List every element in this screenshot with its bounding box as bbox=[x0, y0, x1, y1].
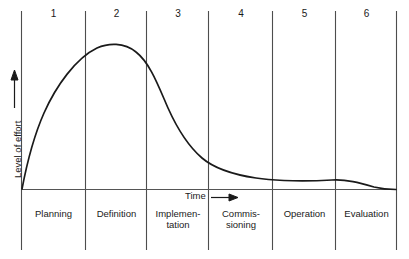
phase-label-definition: Definition bbox=[86, 209, 147, 220]
phase-number-5: 5 bbox=[273, 8, 336, 20]
phase-label-operation: Operation bbox=[273, 209, 336, 220]
y-axis-label: Level of effort bbox=[12, 121, 23, 178]
phase-label-planning: Planning bbox=[21, 209, 86, 220]
phase-number-2: 2 bbox=[86, 8, 147, 20]
x-axis-arrow-icon bbox=[211, 194, 238, 201]
phase-number-1: 1 bbox=[21, 8, 86, 20]
phase-number-4: 4 bbox=[209, 8, 273, 20]
x-axis-label: Time bbox=[185, 191, 206, 202]
y-axis-arrow-icon bbox=[11, 70, 18, 108]
phase-label-implementation: Implemen- tation bbox=[147, 209, 209, 231]
phase-label-evaluation: Evaluation bbox=[336, 209, 397, 220]
phase-number-6: 6 bbox=[336, 8, 397, 20]
phase-number-3: 3 bbox=[147, 8, 209, 20]
phase-label-commissioning: Commis- sioning bbox=[209, 209, 273, 231]
level-of-effort-diagram: 1 2 3 4 5 6 Planning Definition Implemen… bbox=[0, 0, 409, 259]
